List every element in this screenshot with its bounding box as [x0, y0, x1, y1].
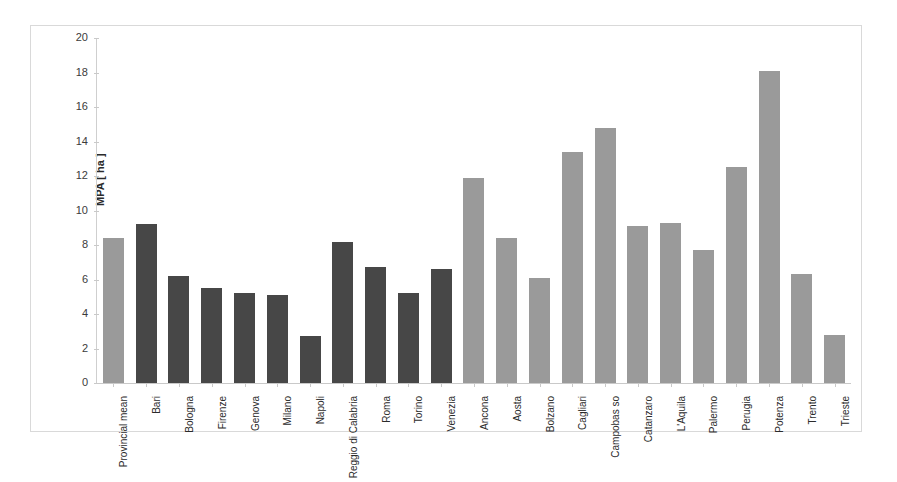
x-label-slot: Reggio di Calabria [326, 398, 359, 410]
bar-slot [589, 38, 622, 383]
x-label-slot: Potenza [753, 398, 786, 410]
bar-slot [392, 38, 425, 383]
x-axis-tick-label: Reggio di Calabria [348, 394, 359, 482]
bar[interactable] [365, 267, 386, 383]
bar-slot [326, 38, 359, 383]
x-axis-tick [540, 383, 541, 387]
x-axis-tick [671, 383, 672, 387]
bar[interactable] [103, 238, 124, 383]
bar-slot [556, 38, 589, 383]
x-axis-tick-label: Ancona [479, 394, 490, 482]
bar-slot [294, 38, 327, 383]
x-axis-tick-label: Firenze [217, 394, 228, 482]
bar-slot [785, 38, 818, 383]
bar[interactable] [136, 224, 157, 383]
bar[interactable] [562, 152, 583, 383]
x-label-slot: Firenze [195, 398, 228, 410]
bar[interactable] [300, 336, 321, 383]
bar-slot [490, 38, 523, 383]
bar-slot [720, 38, 753, 383]
x-axis-tick-label: Potenza [774, 394, 785, 482]
bar-slot [818, 38, 851, 383]
x-axis-tick [572, 383, 573, 387]
bar-slot [654, 38, 687, 383]
x-label-slot: Cagliari [556, 398, 589, 410]
bar[interactable] [463, 178, 484, 383]
bar[interactable] [332, 242, 353, 383]
bar-slot [622, 38, 655, 383]
x-label-slot: Bolzano [523, 398, 556, 410]
x-axis-tick [146, 383, 147, 387]
bar-slot [261, 38, 294, 383]
bar-slot [359, 38, 392, 383]
x-label-slot: Aosta [490, 398, 523, 410]
x-label-slot: Palermo [687, 398, 720, 410]
x-label-slot: L'Aquila [654, 398, 687, 410]
bar[interactable] [496, 238, 517, 383]
bar[interactable] [398, 293, 419, 383]
bar-slot [687, 38, 720, 383]
x-label-slot: Venezia [425, 398, 458, 410]
bar-slot [523, 38, 556, 383]
bar[interactable] [693, 250, 714, 383]
x-label-slot: Campobas so [589, 398, 622, 410]
x-axis-tick-labels: Provincial meanBariBolognaFirenzeGenovaM… [97, 398, 851, 438]
x-axis-tick-label: Perugia [741, 394, 752, 482]
bar[interactable] [529, 278, 550, 383]
x-axis-tick-label: Venezia [446, 394, 457, 482]
x-axis-tick [376, 383, 377, 387]
x-axis-tick [277, 383, 278, 387]
x-axis-tick [703, 383, 704, 387]
x-label-slot: Bari [130, 398, 163, 410]
x-axis-tick [474, 383, 475, 387]
x-axis-tick [835, 383, 836, 387]
x-axis-tick-label: Bolzano [545, 394, 556, 482]
x-axis-tick [736, 383, 737, 387]
chart-frame: MPA [ ha ] 02468101214161820 Provincial … [30, 25, 862, 432]
x-axis-tick-label: Genova [250, 394, 261, 482]
x-axis-tick-label: Palermo [708, 394, 719, 482]
x-axis-tick [113, 383, 114, 387]
x-axis-tick-label: L'Aquila [676, 394, 687, 482]
bar[interactable] [267, 295, 288, 383]
bar-slot [130, 38, 163, 383]
y-axis-tick-label: 6 [48, 274, 88, 285]
x-label-slot: Ancona [458, 398, 491, 410]
x-label-slot: Provincial mean [97, 398, 130, 410]
y-axis-tick-label: 14 [48, 136, 88, 147]
bar[interactable] [595, 128, 616, 383]
bar-slot [425, 38, 458, 383]
x-axis-tick [310, 383, 311, 387]
x-axis-tick-label: Catanzaro [643, 394, 654, 482]
bar-slot [195, 38, 228, 383]
bar[interactable] [431, 269, 452, 383]
x-label-slot: Trieste [818, 398, 851, 410]
bar[interactable] [759, 71, 780, 383]
bar[interactable] [660, 223, 681, 383]
bar-slot [228, 38, 261, 383]
x-axis-tick [507, 383, 508, 387]
bar-series [97, 38, 851, 383]
y-axis-tick-label: 18 [48, 67, 88, 78]
bar[interactable] [627, 226, 648, 383]
bar[interactable] [168, 276, 189, 383]
x-label-slot: Genova [228, 398, 261, 410]
x-axis-tick-label: Trento [807, 394, 818, 482]
x-axis-tick [802, 383, 803, 387]
bar-slot [753, 38, 786, 383]
y-axis-tick-label: 2 [48, 343, 88, 354]
bar[interactable] [234, 293, 255, 383]
x-axis-tick [605, 383, 606, 387]
bar[interactable] [824, 335, 845, 383]
bar[interactable] [726, 167, 747, 383]
x-axis-tick-label: Campobas so [610, 394, 621, 482]
bar-slot [97, 38, 130, 383]
y-axis-tick-label: 0 [48, 377, 88, 388]
bar[interactable] [791, 274, 812, 383]
x-axis-tick-label: Cagliari [577, 394, 588, 482]
x-axis-tick-label: Roma [381, 394, 392, 482]
bar[interactable] [201, 288, 222, 383]
x-label-slot: Milano [261, 398, 294, 410]
x-axis-tick-label: Milano [282, 394, 293, 482]
x-label-slot: Torino [392, 398, 425, 410]
